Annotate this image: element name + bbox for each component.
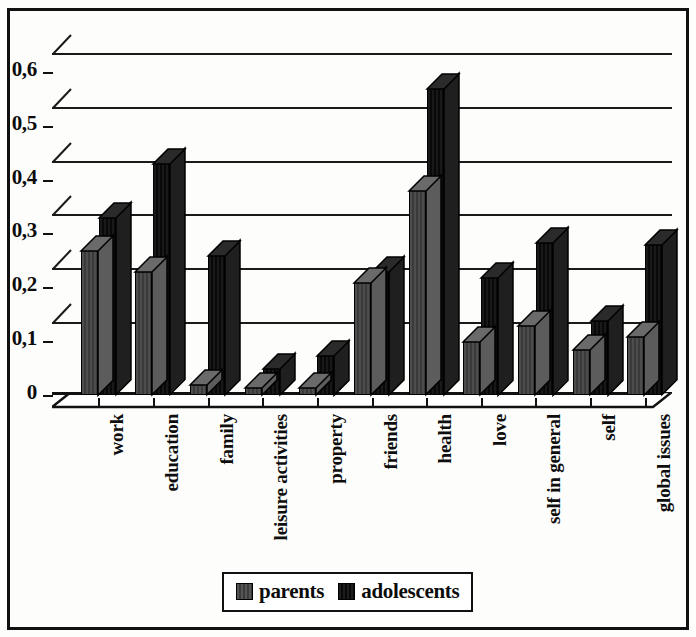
bar-top-face (354, 267, 371, 282)
bar-side-face (590, 349, 605, 395)
bar-top-face (518, 310, 535, 325)
x-axis-category-labels: workeducationfamilyleisure activitiespro… (52, 410, 672, 560)
x-axis-tick (645, 398, 647, 408)
bar-parents-self-in-general (518, 325, 535, 395)
x-axis-label-health: health (434, 414, 456, 463)
x-axis-tick (262, 398, 264, 408)
bar-side-face (553, 242, 568, 395)
bar-side-face (371, 282, 386, 395)
bar-parents-property (299, 387, 316, 395)
legend-entry-adolescents: adolescents (338, 579, 459, 604)
bar-side-face (498, 277, 513, 395)
plot-area: 00,10,20,30,40,50,6 (52, 28, 672, 410)
bar-face (135, 271, 152, 395)
bar-face (463, 341, 480, 395)
bar-top-face (427, 73, 444, 88)
bar-top-face (591, 305, 608, 320)
bar-side-face (116, 217, 131, 395)
bar-face (409, 190, 426, 395)
bar-top-face (81, 235, 98, 250)
bar-top-face (409, 175, 426, 190)
bar-top-face (481, 262, 498, 277)
bar-top-face (135, 256, 152, 271)
bar-parents-leisure-activities (245, 387, 262, 395)
x-axis-label-family: family (216, 414, 238, 465)
bar-side-face (170, 163, 185, 395)
bar-top-face (536, 227, 553, 242)
x-axis-label-work: work (106, 414, 128, 455)
bar-parents-family (190, 384, 207, 395)
y-axis-tick-label: 0 (27, 380, 37, 405)
bar-face (627, 336, 644, 395)
bar-face (573, 349, 590, 395)
bar-top-face (245, 372, 262, 387)
legend-swatch-parents-icon (236, 583, 253, 600)
bar-side-face (225, 255, 240, 395)
bar-top-face (627, 321, 644, 336)
x-axis-label-global-issues: global issues (653, 414, 675, 512)
bar-top-face (208, 240, 225, 255)
bar-top-face (153, 148, 170, 163)
x-axis-tick (481, 398, 483, 408)
x-axis-tick (426, 398, 428, 408)
bar-parents-work (81, 250, 98, 395)
x-axis-tick (153, 398, 155, 408)
bar-parents-love (463, 341, 480, 395)
bar-side-face (389, 271, 404, 395)
legend-swatch-adolescents-icon (338, 583, 355, 600)
bar-side-face (98, 250, 113, 395)
bar-top-face (190, 369, 207, 384)
x-axis-label-self-in-general: self in general (543, 414, 565, 524)
x-axis-label-love: love (489, 414, 511, 446)
y-axis-tick-label: 0,6 (12, 56, 37, 81)
bar-parents-self (573, 349, 590, 395)
x-axis-label-property: property (325, 414, 347, 484)
bar-side-face (480, 341, 495, 395)
bar-parents-global-issues (627, 336, 644, 395)
x-axis-tick (590, 398, 592, 408)
bar-parents-education (135, 271, 152, 395)
x-axis-tick (317, 398, 319, 408)
legend-label-adolescents: adolescents (361, 579, 459, 604)
bar-side-face (426, 190, 441, 395)
y-axis-tick-label: 0,1 (12, 326, 37, 351)
x-axis-tick (208, 398, 210, 408)
y-axis-tick-label: 0,5 (12, 110, 37, 135)
bar-top-face (645, 229, 662, 244)
y-axis-tick-label: 0,4 (12, 164, 37, 189)
bar-parents-friends (354, 282, 371, 395)
bar-face (81, 250, 98, 395)
y-axis-tick-label: 0,3 (12, 218, 37, 243)
bar-side-face (644, 336, 659, 395)
bar-top-face (573, 334, 590, 349)
x-axis-tick (372, 398, 374, 408)
bar-side-face (535, 325, 550, 395)
bar-side-face (608, 320, 623, 395)
bar-face (354, 282, 371, 395)
bar-top-face (99, 202, 116, 217)
bar-side-face (280, 368, 295, 395)
x-axis-label-leisure-activities: leisure activities (270, 414, 292, 540)
bar-top-face (263, 353, 280, 368)
bar-side-face (334, 355, 349, 395)
x-axis-tick (98, 398, 100, 408)
bar-side-face (444, 88, 459, 395)
x-axis-label-education: education (161, 414, 183, 491)
x-axis-tick (535, 398, 537, 408)
y-axis-tick-label: 0,2 (12, 272, 37, 297)
bar-top-face (317, 340, 334, 355)
legend-entry-parents: parents (236, 579, 324, 604)
chart-legend: parents adolescents (222, 572, 473, 612)
bar-face (518, 325, 535, 395)
x-axis-label-self: self (598, 414, 620, 441)
bar-parents-health (409, 190, 426, 395)
legend-label-parents: parents (259, 579, 324, 604)
bars-layer (52, 28, 672, 410)
chart-figure: 00,10,20,30,40,50,6 workeducationfamilyl… (0, 0, 696, 637)
bar-side-face (662, 244, 677, 395)
bar-top-face (463, 326, 480, 341)
x-axis-label-friends: friends (380, 414, 402, 470)
bar-top-face (299, 372, 316, 387)
bar-side-face (152, 271, 167, 395)
